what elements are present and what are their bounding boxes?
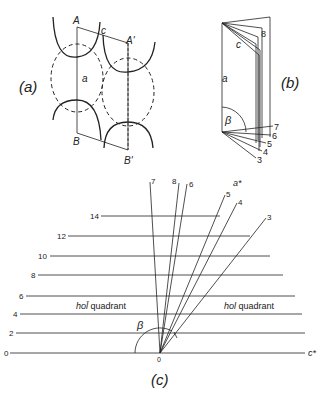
axis-a-label: a: [82, 73, 88, 84]
row-label-8: 8: [31, 271, 36, 280]
left-quadrant-label: hol̄ quadrant: [76, 301, 127, 311]
axis-c-label: c: [101, 25, 106, 36]
panel-b-label: (b): [281, 74, 299, 91]
ray-label-4: 4: [238, 198, 243, 207]
row-label-10: 10: [38, 252, 47, 261]
point-a-label: A: [72, 15, 80, 26]
row-label-14: 14: [90, 212, 99, 221]
panel-a-label: (a): [19, 78, 37, 95]
panel-b-axis-a: a: [222, 73, 228, 84]
right-quadrant-index: hol: [224, 301, 237, 311]
panel-c-reciprocal: [10, 182, 305, 353]
panel-c-label: (c): [151, 371, 169, 388]
panel-b-axis-c: c: [236, 39, 241, 50]
ray-label-7: 7: [151, 177, 156, 186]
row-label-0: 0: [4, 349, 9, 358]
panel-a-lattice: [51, 17, 155, 150]
ray-label-5: 5: [226, 190, 231, 199]
axis-a-star-label: a*: [233, 178, 242, 188]
panel-c-beta: β: [136, 319, 144, 331]
panel-b-beta: β: [224, 114, 232, 126]
ray-label-3: 3: [267, 213, 272, 222]
right-quadrant-label: hol quadrant: [224, 301, 275, 311]
row-label-4: 4: [13, 310, 18, 319]
left-quadrant-index: hol̄: [76, 301, 90, 311]
ray-label-6: 6: [189, 180, 194, 189]
row-label-12: 12: [57, 232, 66, 241]
left-quadrant-word: quadrant: [91, 301, 127, 311]
point-a-prime-label: A': [125, 35, 136, 46]
row-label-6: 6: [19, 292, 24, 301]
origin-label: 0: [157, 356, 161, 363]
panel-b-index-4: 4: [263, 147, 268, 157]
point-b-prime-label: B': [124, 155, 134, 166]
ray-label-8: 8: [172, 177, 177, 186]
crystal-diagram: (a) A c A' a B B' (b) a c β 8 7 6 5 4 3 …: [0, 0, 327, 394]
panel-b-index-8: 8: [261, 29, 266, 39]
panel-b-index-6: 6: [272, 131, 277, 141]
right-quadrant-word: quadrant: [239, 301, 275, 311]
row-label-2: 2: [9, 329, 14, 338]
panel-b-index-3: 3: [257, 155, 262, 165]
point-b-label: B: [73, 136, 80, 147]
axis-c-star-label: c*: [308, 348, 317, 358]
